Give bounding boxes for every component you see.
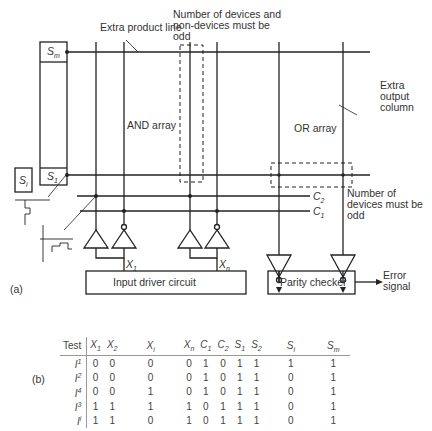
header-test: Test [60,337,87,356]
part-b-label: (b) [32,374,45,385]
header-xn: Xn [181,337,198,356]
extra-output-column-label: Extra output column [380,80,420,113]
header-x2: X2 [104,337,121,356]
test-table: Test X1 X2 Xi Xn C1 C2 S1 S2 Si Sm I1 00… [60,337,350,428]
si-label: Si [19,175,28,190]
header-x1: X1 [87,337,104,356]
product-register [40,42,67,185]
error-signal-label: Error signal [383,270,423,292]
s1-label: S1 [47,171,58,186]
c1-label: C1 [313,206,325,221]
xn-label: Xn [219,259,230,274]
table-row: I1 0000101111 [60,356,350,371]
table-row: I4 0010101101 [60,385,350,399]
devices-odd-note: Number of devices must be odd [347,188,427,221]
header-s1: S1 [232,337,249,356]
header-si: Si [265,337,317,356]
table-row: Ii 1101011101 [60,413,350,427]
header-c1: C1 [197,337,214,356]
header-sm: Sm [317,337,350,356]
header-s2: S2 [248,337,265,356]
table-row: I2 0000101101 [60,370,350,384]
table-row: I3 1111011101 [60,399,350,413]
devices-nondevices-note: Number of devices and non-devices must b… [173,9,283,42]
sm-label: Sm [47,46,60,61]
header-xi: Xi [121,337,181,356]
and-array-label: AND array [127,120,176,131]
input-driver-label: Input driver circuit [113,277,196,288]
parity-checker-label: Parity checker [280,277,347,288]
or-array-label: OR array [294,123,337,134]
extra-product-line-label: Extra product line [100,22,182,33]
part-a-label: (a) [10,284,23,295]
x1-label: X1 [126,259,137,274]
table-header-row: Test X1 X2 Xi Xn C1 C2 S1 S2 Si Sm [60,337,350,356]
header-c2: C2 [214,337,231,356]
c2-label: C2 [313,191,325,206]
